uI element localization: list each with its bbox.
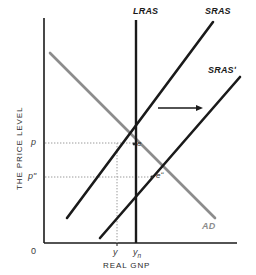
point-label-e-double-prime: eʺ xyxy=(156,172,163,180)
y-tick-label-p-double-prime: pʺ xyxy=(28,172,36,181)
point-marker-e-double-prime xyxy=(151,176,154,179)
x-tick-label-yn-subscript: n xyxy=(138,252,142,259)
curve-label-lras: LRAS xyxy=(133,7,158,16)
x-axis-title: REAL GNP xyxy=(103,262,150,270)
point-marker-e xyxy=(133,143,136,146)
curve-label-ad: AD xyxy=(202,222,215,231)
origin-label: 0 xyxy=(31,247,36,256)
x-tick-label-y: y xyxy=(113,248,118,257)
y-axis-title: THE PRICE LEVEL xyxy=(16,107,24,190)
rightward-shift-arrow xyxy=(158,105,203,111)
point-label-e: e xyxy=(137,140,141,148)
curve-sras xyxy=(67,22,213,218)
y-tick-label-p: p xyxy=(31,138,36,147)
curve-sras-prime xyxy=(100,77,240,238)
chart-canvas xyxy=(0,0,256,275)
curve-label-sras: SRAS xyxy=(205,7,231,16)
curve-label-sras-prime: SRASʹ xyxy=(208,66,236,75)
aggregate-supply-demand-figure: THE PRICE LEVEL REAL GNP 0 p pʺ y yn e e… xyxy=(0,0,256,275)
x-tick-label-yn: yn xyxy=(133,248,141,259)
